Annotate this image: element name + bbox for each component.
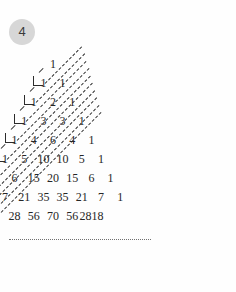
figure-page: 4 11112113311464115101051161520156117213… [0,0,236,292]
triangle-cell: 4 [31,132,37,148]
triangle-cell: 21 [18,189,30,205]
triangle-cell: 3 [40,113,46,129]
triangle-cell: 15 [28,170,40,186]
corner-mark-tick [1,144,6,149]
triangle-cell: 2818 [79,208,103,224]
triangle-cell: 56 [28,208,40,224]
triangle-cell: 1 [40,75,46,91]
triangle-cell: 15 [66,170,78,186]
triangle-cell: 1 [79,113,85,129]
dotted-continuation-line [9,239,151,240]
triangle-cell: 10 [37,151,49,167]
triangle-cell: 4 [69,132,75,148]
triangle-cell: 1 [117,189,123,205]
triangle-cell: 7 [2,189,8,205]
triangle-cell: 10 [57,151,69,167]
triangle-cell: 2 [50,94,56,110]
triangle-cell: 1 [50,56,56,72]
triangle-cell: 56 [66,208,78,224]
triangle-cell: 6 [12,170,18,186]
triangle-cell: 28 [9,208,21,224]
triangle-cell: 1 [12,132,18,148]
triangle-cell: 35 [37,189,49,205]
triangle-cell: 1 [31,94,37,110]
triangle-cell: 70 [47,208,59,224]
triangle-cell: 35 [57,189,69,205]
corner-mark-tick [39,68,44,73]
triangle-cell: 1 [69,94,75,110]
corner-mark-tick [20,106,25,111]
triangle-cell: 5 [79,151,85,167]
triangle-cell: 20 [47,170,59,186]
corner-mark-tick [29,87,34,92]
pascals-triangle-figure: 1111211331146411510105116152015611721353… [0,0,236,292]
corner-mark-tick [10,125,15,130]
triangle-cell: 1 [88,132,94,148]
triangle-cell: 6 [88,170,94,186]
triangle-cell: 6 [50,132,56,148]
triangle-cell: 7 [98,189,104,205]
triangle-cell: 1 [108,170,114,186]
triangle-cell: 3 [60,113,66,129]
triangle-cell: 1 [98,151,104,167]
triangle-cell: 1 [21,113,27,129]
triangle-cell: 1 [2,151,8,167]
triangle-cell: 5 [21,151,27,167]
triangle-cell: 1 [60,75,66,91]
triangle-cell: 21 [76,189,88,205]
